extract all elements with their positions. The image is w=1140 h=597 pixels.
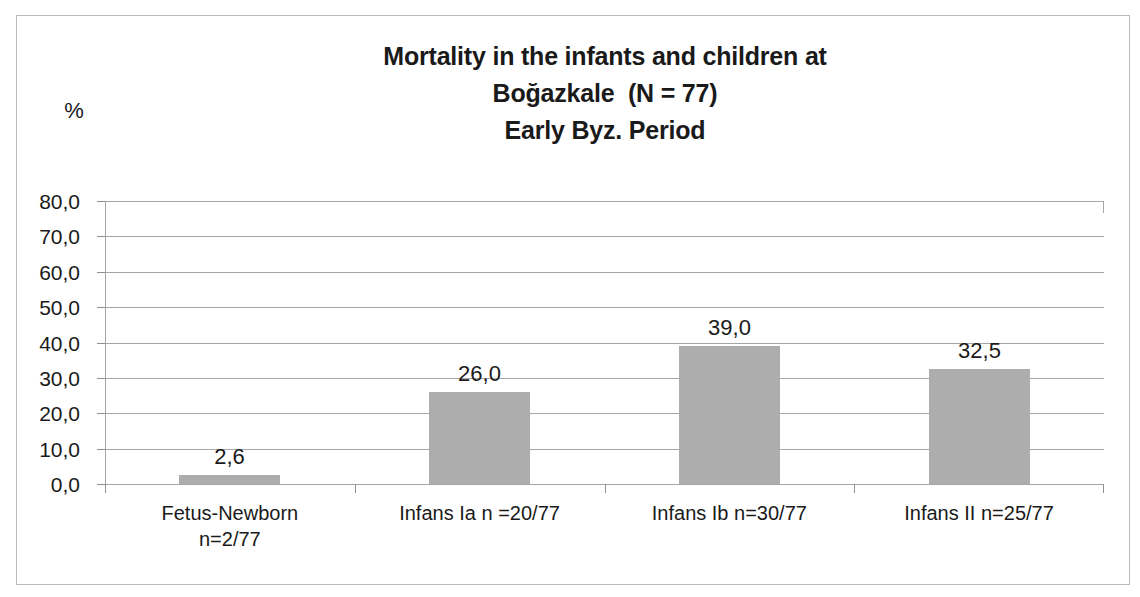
- bar-infans-ia[interactable]: [429, 392, 530, 484]
- bar-value-infans-ii: 32,5: [919, 340, 1040, 362]
- x-tick-3: [854, 484, 855, 493]
- y-tick-80: [97, 201, 105, 202]
- y-tick-40: [97, 343, 105, 344]
- y-axis-unit-label: %: [51, 98, 97, 124]
- chart-title: Mortality in the infants and children at…: [105, 38, 1105, 149]
- gridline-60: [105, 272, 1104, 273]
- bar-fetus-newborn[interactable]: [179, 475, 280, 484]
- y-tick-label-20: 20,0: [0, 403, 80, 424]
- bar-infans-ii[interactable]: [929, 369, 1030, 484]
- x-tick-0: [105, 484, 106, 493]
- y-tick-label-10: 10,0: [0, 439, 80, 460]
- y-tick-30: [97, 378, 105, 379]
- y-tick-70: [97, 236, 105, 237]
- chart-title-line-3: Early Byz. Period: [105, 112, 1105, 149]
- plot-area: 80,0 70,0 60,0 50,0 40,0 30,0 20,0 10,0 …: [105, 201, 1104, 484]
- y-tick-label-50: 50,0: [0, 297, 80, 318]
- x-tick-4: [1103, 484, 1104, 493]
- y-tick-0: [97, 484, 105, 485]
- y-tick-10: [97, 449, 105, 450]
- y-tick-20: [97, 413, 105, 414]
- gridline-80: [105, 201, 1104, 202]
- y-tick-label-60: 60,0: [0, 262, 80, 283]
- chart-title-line-1: Mortality in the infants and children at: [105, 38, 1105, 75]
- x-category-label-infans-ii: Infans II n=25/77: [854, 500, 1104, 526]
- x-tick-1: [355, 484, 356, 493]
- gridline-50: [105, 307, 1104, 308]
- x-tick-2: [605, 484, 606, 493]
- plot-right-cap: [1103, 201, 1104, 213]
- y-tick-50: [97, 307, 105, 308]
- x-category-label-infans-ib: Infans Ib n=30/77: [605, 500, 855, 526]
- bar-infans-ib[interactable]: [679, 346, 780, 484]
- x-category-label-fetus-newborn: Fetus-Newborn n=2/77: [105, 500, 355, 552]
- y-tick-60: [97, 272, 105, 273]
- bar-value-infans-ia: 26,0: [419, 363, 540, 385]
- y-tick-label-80: 80,0: [0, 191, 80, 212]
- y-tick-label-30: 30,0: [0, 368, 80, 389]
- y-tick-label-70: 70,0: [0, 226, 80, 247]
- bar-value-infans-ib: 39,0: [669, 317, 790, 339]
- chart-title-line-2: Boğazkale (N = 77): [105, 75, 1105, 112]
- gridline-70: [105, 236, 1104, 237]
- chart-frame: Mortality in the infants and children at…: [16, 15, 1130, 585]
- x-category-label-infans-ia: Infans Ia n =20/77: [355, 500, 605, 526]
- bar-value-fetus-newborn: 2,6: [169, 446, 290, 468]
- y-tick-label-40: 40,0: [0, 333, 80, 354]
- y-tick-label-0: 0,0: [0, 474, 80, 495]
